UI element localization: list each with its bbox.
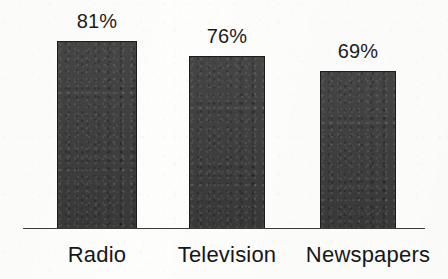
plot-area: 81% 76% 69% Radio Television Newspapers	[0, 0, 448, 279]
bar-value-label-radio: 81%	[57, 10, 137, 33]
x-axis-baseline	[23, 228, 425, 229]
bar-value-label-television: 76%	[189, 25, 265, 48]
bar-television[interactable]	[189, 56, 265, 229]
bar-chart: 81% 76% 69% Radio Television Newspapers	[0, 0, 448, 279]
bar-value-label-newspapers: 69%	[320, 40, 396, 63]
bar-radio[interactable]	[57, 41, 137, 229]
bar-newspapers[interactable]	[320, 71, 396, 229]
category-label-television: Television	[157, 242, 297, 268]
category-label-newspapers: Newspapers	[295, 242, 441, 268]
category-label-radio: Radio	[37, 242, 157, 268]
